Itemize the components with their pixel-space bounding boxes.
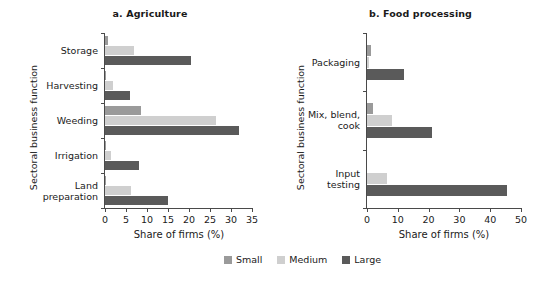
y-tick [363, 150, 367, 151]
y-tick [101, 103, 105, 104]
y-tick [101, 138, 105, 139]
y-tick [363, 33, 367, 34]
legend-swatch-small [224, 256, 232, 264]
x-tick-label: 50 [515, 214, 527, 225]
panel-b-x-axis-title: Share of firms (%) [399, 229, 490, 240]
x-tick [231, 208, 232, 212]
bar-group: Packaging [367, 33, 521, 91]
category-label: Landpreparation [43, 180, 98, 202]
x-tick-label: 25 [204, 214, 216, 225]
bar-group: Landpreparation [105, 173, 252, 208]
bar-small [105, 71, 106, 80]
x-tick-label: 10 [141, 214, 153, 225]
bar-large [105, 56, 191, 65]
panel-a-x-axis-title: Share of firms (%) [134, 229, 225, 240]
panel-agriculture: a. Agriculture Sectoral business functio… [0, 0, 272, 245]
legend-label-small: Small [236, 254, 262, 265]
bar-large [105, 126, 239, 135]
x-tick [398, 208, 399, 212]
bar-medium [367, 173, 387, 184]
legend-label-large: Large [354, 254, 381, 265]
bar-small [105, 36, 108, 45]
x-tick [252, 208, 253, 212]
x-tick-label: 20 [183, 214, 195, 225]
panel-a-plot-area: StorageHarvestingWeedingIrrigationLandpr… [104, 33, 252, 208]
y-tick [101, 33, 105, 34]
category-label: Inputtesting [327, 168, 360, 190]
bar-group: Storage [105, 33, 252, 68]
category-label: Storage [61, 45, 98, 56]
x-tick-label: 5 [123, 214, 129, 225]
figure-two-panel-bar-charts: a. Agriculture Sectoral business functio… [0, 0, 549, 281]
x-tick [147, 208, 148, 212]
bar-group: Irrigation [105, 138, 252, 173]
bar-small [105, 141, 106, 150]
x-tick [490, 208, 491, 212]
category-label: Mix, blend,cook [308, 109, 360, 131]
bar-medium [367, 115, 392, 126]
x-tick-label: 0 [364, 214, 370, 225]
x-tick [126, 208, 127, 212]
legend-item: Medium [277, 254, 327, 265]
bar-group: Weeding [105, 103, 252, 138]
bar-large [367, 69, 404, 80]
legend-item: Large [342, 254, 381, 265]
bar-large [105, 196, 168, 205]
bar-large [105, 161, 139, 170]
x-tick-label: 0 [102, 214, 108, 225]
legend: Small Medium Large [0, 254, 549, 265]
bar-large [367, 127, 432, 138]
x-tick-label: 30 [225, 214, 237, 225]
bar-medium [105, 81, 113, 90]
bar-large [105, 91, 130, 100]
bar-small [367, 45, 371, 56]
x-tick-label: 10 [392, 214, 404, 225]
category-label: Harvesting [46, 80, 98, 91]
bar-medium [105, 186, 131, 195]
y-tick [101, 68, 105, 69]
bar-medium [367, 57, 369, 68]
x-tick-label: 40 [484, 214, 496, 225]
panel-food-processing: b. Food processing Sectoral business fun… [272, 0, 549, 245]
bar-group: Harvesting [105, 68, 252, 103]
bar-group: Mix, blend,cook [367, 91, 521, 149]
x-tick-label: 30 [453, 214, 465, 225]
category-label: Irrigation [55, 150, 98, 161]
bar-large [367, 185, 507, 196]
legend-swatch-medium [277, 256, 285, 264]
x-tick [189, 208, 190, 212]
x-tick-label: 15 [162, 214, 174, 225]
legend-swatch-large [342, 256, 350, 264]
bar-medium [105, 116, 216, 125]
bar-medium [105, 151, 111, 160]
x-tick [459, 208, 460, 212]
panel-a-title: a. Agriculture [0, 8, 272, 19]
panel-a-y-axis-title: Sectoral business function [28, 48, 39, 208]
panel-b-x-axis-line [366, 208, 521, 209]
bar-small [105, 106, 141, 115]
x-tick [367, 208, 368, 212]
bar-group: Inputtesting [367, 150, 521, 208]
y-tick [363, 91, 367, 92]
panel-b-title: b. Food processing [272, 8, 549, 19]
legend-label-medium: Medium [289, 254, 327, 265]
x-tick [105, 208, 106, 212]
x-tick-label: 20 [423, 214, 435, 225]
panel-b-y-axis-title: Sectoral business function [295, 48, 306, 208]
x-tick [429, 208, 430, 212]
x-tick [210, 208, 211, 212]
bar-small [105, 176, 106, 185]
x-tick [521, 208, 522, 212]
x-tick [168, 208, 169, 212]
bar-medium [105, 46, 134, 55]
panel-b-plot-area: PackagingMix, blend,cookInputtesting 010… [366, 33, 521, 208]
category-label: Weeding [57, 115, 98, 126]
bar-small [367, 103, 373, 114]
category-label: Packaging [312, 57, 360, 68]
legend-item: Small [224, 254, 262, 265]
x-tick-label: 35 [246, 214, 258, 225]
y-tick [101, 173, 105, 174]
